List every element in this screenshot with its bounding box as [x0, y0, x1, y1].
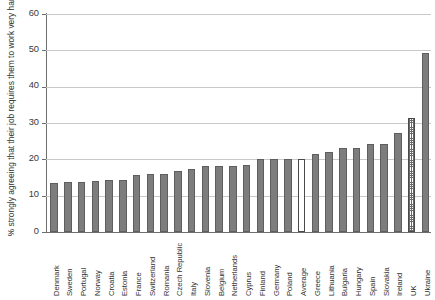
- x-axis-label-text: Average: [299, 268, 308, 296]
- x-axis-label-text: Ireland: [395, 273, 404, 296]
- bar: [50, 183, 58, 232]
- bar: [257, 159, 265, 232]
- bar: [270, 159, 278, 232]
- bar-chart: % strongly agreeing that their job requi…: [0, 0, 435, 300]
- bar: [92, 181, 100, 232]
- x-axis-label-text: Ukraine: [423, 270, 432, 296]
- x-axis-label-text: Netherlands: [230, 255, 239, 296]
- x-axis-label-text: Greece: [313, 271, 322, 296]
- bar: [298, 159, 306, 232]
- y-tick-label: 50: [29, 44, 39, 54]
- x-axis-label-text: Germany: [272, 265, 281, 296]
- x-axis-label-text: Hungary: [354, 267, 363, 296]
- bar: [105, 180, 113, 232]
- bar: [422, 53, 430, 232]
- x-axis-label-text: Spain: [368, 277, 377, 296]
- bar: [339, 148, 347, 232]
- x-axis-label-text: France: [134, 272, 143, 296]
- bar: [380, 144, 388, 232]
- y-tick-label: 10: [29, 189, 39, 199]
- x-axis-label-text: Norway: [93, 270, 102, 296]
- bar-series: [46, 14, 431, 232]
- bar: [394, 133, 402, 232]
- bar: [229, 166, 237, 232]
- bar: [119, 180, 127, 232]
- x-axis-label-text: Slovenia: [203, 267, 212, 296]
- bar: [78, 182, 86, 232]
- x-axis-label-text: Lithuania: [327, 265, 336, 296]
- x-axis-label-text: Slovakia: [382, 267, 391, 296]
- x-axis-label-text: Finland: [258, 271, 267, 296]
- bar: [215, 166, 223, 232]
- y-tick-label: 40: [29, 80, 39, 90]
- y-tick-label: 60: [29, 8, 39, 18]
- x-axis-label-text: Romania: [162, 266, 171, 296]
- x-axis-label-text: Poland: [285, 272, 294, 296]
- y-tick-label: 30: [29, 117, 39, 127]
- bar: [174, 171, 182, 232]
- bar: [408, 118, 416, 232]
- x-axis-label-text: Denmark: [52, 265, 61, 296]
- x-axis-label-text: Czech Republic: [175, 243, 184, 296]
- x-axis-label-text: Bulgaria: [340, 268, 349, 296]
- bar: [312, 154, 320, 232]
- bar: [284, 159, 292, 232]
- x-axis-label-text: UK: [409, 285, 418, 296]
- bar: [160, 174, 168, 232]
- bar: [147, 174, 155, 232]
- plot-area: [46, 14, 431, 232]
- x-axis-label-text: Sweden: [65, 269, 74, 296]
- x-axis-label-text: Croatia: [107, 272, 116, 296]
- x-axis-labels: DenmarkSwedenPortugalNorwayCroatiaEstoni…: [46, 234, 431, 300]
- x-axis-label-text: Belgium: [217, 269, 226, 296]
- bar: [243, 165, 251, 232]
- x-axis-label-text: Cyprus: [244, 272, 253, 296]
- x-axis-label-text: Italy: [189, 282, 198, 296]
- y-tick-label: 0: [34, 226, 39, 236]
- bar: [64, 182, 72, 232]
- bar: [202, 166, 210, 232]
- bar: [188, 169, 196, 232]
- bar: [367, 144, 375, 232]
- bar: [325, 152, 333, 232]
- bar: [133, 175, 141, 232]
- x-axis-label-text: Switzerland: [148, 257, 157, 296]
- x-axis-label-text: Estonia: [120, 271, 129, 296]
- y-tick-label: 20: [29, 153, 39, 163]
- bar: [353, 148, 361, 232]
- y-axis-ticks: 0102030405060: [0, 14, 46, 232]
- gridline-0: [46, 232, 431, 233]
- x-axis-label-text: Portugal: [79, 268, 88, 296]
